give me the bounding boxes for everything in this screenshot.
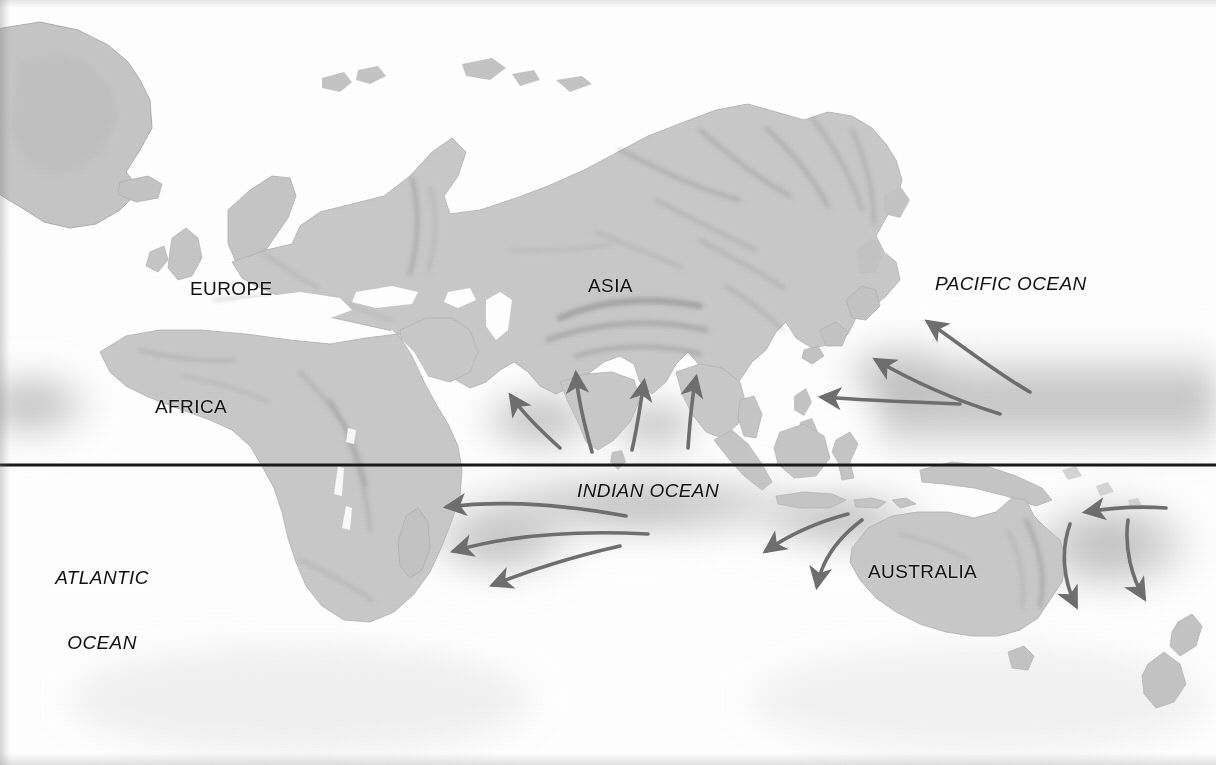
landmass-africa [100, 330, 462, 622]
landmass-british-isles [146, 228, 202, 280]
map-canvas [0, 0, 1216, 765]
landmass-arctic-islets [322, 58, 592, 92]
world-map: EUROPE ASIA AFRICA AUSTRALIA PACIFIC OCE… [0, 0, 1216, 765]
landmass-australia [850, 498, 1066, 670]
